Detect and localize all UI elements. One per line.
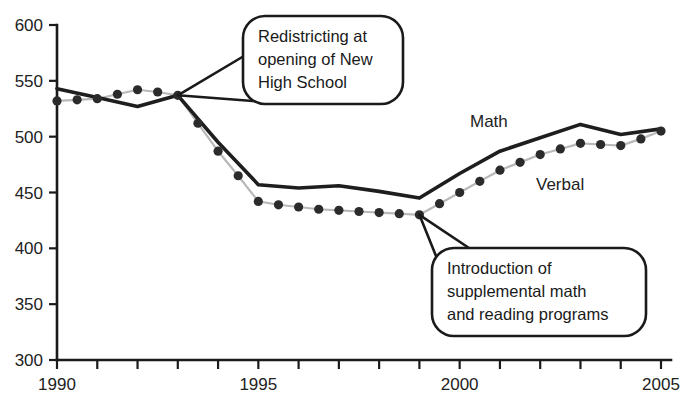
verbal-data-point — [113, 90, 122, 99]
verbal-data-point — [536, 150, 545, 159]
x-tick-label: 1990 — [38, 375, 76, 394]
callout-text-line: supplemental math — [447, 282, 586, 300]
callout-text-line: and reading programs — [447, 305, 608, 323]
verbal-data-point — [193, 119, 202, 128]
y-axis-ticks: 300350400450500550600 — [15, 16, 57, 370]
series-layer — [52, 85, 665, 219]
verbal-data-point — [254, 197, 263, 206]
verbal-data-point — [334, 206, 343, 215]
x-tick-label: 2000 — [441, 375, 479, 394]
series-labels: MathVerbal — [470, 112, 584, 194]
verbal-data-point — [576, 139, 585, 148]
series-label-verbal: Verbal — [536, 175, 584, 194]
y-tick-label: 550 — [15, 72, 43, 91]
y-tick-label: 450 — [15, 184, 43, 203]
verbal-data-point — [153, 87, 162, 96]
verbal-data-point — [234, 171, 243, 180]
verbal-data-point — [455, 188, 464, 197]
verbal-data-point — [495, 166, 504, 175]
verbal-data-point — [314, 205, 323, 214]
verbal-data-point — [475, 177, 484, 186]
x-axis-ticks: 1990199520002005 — [38, 360, 680, 394]
x-tick-label: 2005 — [642, 375, 680, 394]
line-chart: 300350400450500550600 1990199520002005 M… — [0, 0, 699, 420]
verbal-data-point — [354, 207, 363, 216]
y-tick-label: 500 — [15, 128, 43, 147]
verbal-data-point — [636, 134, 645, 143]
callout-text-line: opening of New — [258, 50, 373, 68]
verbal-data-point — [435, 199, 444, 208]
callout-redistricting: Redistricting atopening of NewHigh Schoo… — [178, 16, 403, 104]
series-label-math: Math — [470, 112, 508, 131]
y-tick-label: 300 — [15, 351, 43, 370]
y-tick-label: 600 — [15, 16, 43, 35]
verbal-data-point — [596, 140, 605, 149]
verbal-data-point — [375, 208, 384, 217]
verbal-data-point — [274, 200, 283, 209]
x-tick-label: 1995 — [239, 375, 277, 394]
verbal-data-point — [395, 209, 404, 218]
callout-text-line: Redistricting at — [258, 27, 368, 45]
verbal-series-line — [57, 90, 661, 215]
callout-text-line: Introduction of — [447, 259, 552, 277]
verbal-data-point — [93, 94, 102, 103]
verbal-data-point — [515, 158, 524, 167]
verbal-data-point — [556, 144, 565, 153]
chart-container: 300350400450500550600 1990199520002005 M… — [0, 0, 699, 420]
callout-text-line: High School — [258, 73, 347, 91]
verbal-data-point — [213, 147, 222, 156]
verbal-data-point — [73, 95, 82, 104]
callout-supplemental-programs: Introduction ofsupplemental mathand read… — [419, 215, 646, 336]
y-tick-label: 400 — [15, 239, 43, 258]
y-axis: 300350400450500550600 — [15, 16, 57, 370]
verbal-data-point — [656, 126, 665, 135]
x-axis: 1990199520002005 — [38, 360, 680, 394]
verbal-data-point — [52, 96, 61, 105]
verbal-data-point — [616, 141, 625, 150]
verbal-data-point — [133, 85, 142, 94]
y-tick-label: 350 — [15, 295, 43, 314]
verbal-data-point — [294, 202, 303, 211]
